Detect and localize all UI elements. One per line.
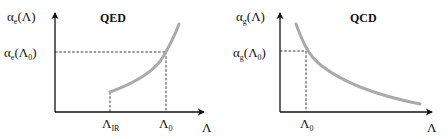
qcd-y-axis-label: αg(Λ) bbox=[236, 10, 265, 23]
qcd-title: QCD bbox=[350, 12, 377, 24]
qed-title: QED bbox=[100, 12, 126, 24]
diagram-graphics bbox=[0, 0, 448, 139]
qed-x-tick-ir: ΛIR bbox=[102, 117, 119, 130]
qcd-x-tick-0: Λ0 bbox=[300, 117, 313, 130]
qcd-panel bbox=[280, 13, 432, 112]
qed-panel bbox=[55, 13, 204, 112]
qed-x-tick-0: Λ0 bbox=[159, 117, 172, 130]
qed-x-axis-label: Λ bbox=[202, 121, 211, 134]
qed-y-ref-label: αe(Λ0) bbox=[4, 46, 36, 59]
qcd-x-axis-label: Λ bbox=[427, 121, 436, 134]
qcd-y-ref-label: αg(Λ0) bbox=[233, 46, 266, 59]
qed-coupling-curve bbox=[110, 24, 179, 92]
qed-y-axis-label: αe(Λ) bbox=[7, 10, 35, 23]
diagram-canvas: αe(Λ) αe(Λ0) QED ΛIR Λ0 Λ αg(Λ) αg(Λ0) Q… bbox=[0, 0, 448, 139]
qcd-coupling-curve bbox=[296, 24, 420, 104]
